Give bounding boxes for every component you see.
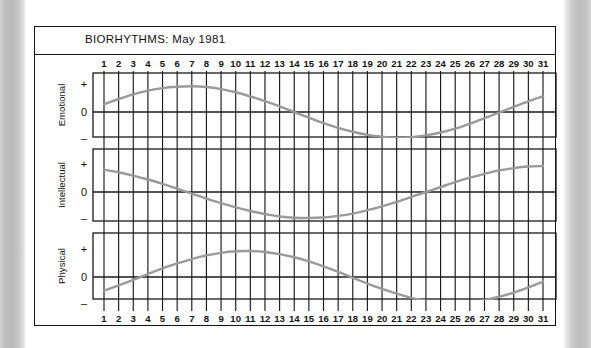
day-label-bottom: 31 [538,313,549,324]
day-label-top: 28 [494,58,505,69]
sign-plus-marker: + [81,243,87,255]
sign-minus-marker: – [81,297,88,309]
day-label-top: 23 [421,58,432,69]
day-label-top: 31 [538,58,549,69]
day-label-bottom: 29 [508,313,519,324]
day-label-top: 30 [523,58,534,69]
day-label-top: 22 [406,58,417,69]
day-label-bottom: 15 [304,313,315,324]
plot-area: 1234567891011121314151617181920212223242… [35,27,557,327]
day-label-top: 20 [377,58,388,69]
day-label-bottom: 10 [230,313,241,324]
day-label-top: 19 [362,58,373,69]
day-label-bottom: 22 [406,313,417,324]
sign-plus-marker: + [81,78,87,90]
sign-zero-marker: 0 [81,271,87,283]
day-label-top: 12 [260,58,271,69]
day-label-top: 29 [508,58,519,69]
day-label-top: 13 [274,58,285,69]
day-label-bottom: 26 [464,313,475,324]
day-label-bottom: 2 [116,313,121,324]
day-label-bottom: 21 [391,313,402,324]
day-label-bottom: 17 [333,313,344,324]
day-label-top: 11 [245,58,256,69]
day-label-top: 21 [391,58,402,69]
day-label-bottom: 8 [204,313,210,324]
day-label-top: 6 [174,58,179,69]
day-label-top: 7 [189,58,194,69]
day-label-bottom: 14 [289,313,300,324]
day-axis-bottom: 1234567891011121314151617181920212223242… [101,313,549,324]
sign-minus-marker: – [81,212,88,224]
day-label-top: 3 [131,58,136,69]
day-label-top: 26 [464,58,475,69]
day-label-bottom: 16 [318,313,329,324]
day-label-top: 9 [218,58,223,69]
biorhythm-plot-svg: 1234567891011121314151617181920212223242… [35,27,557,327]
day-label-bottom: 28 [494,313,505,324]
day-label-top: 16 [318,58,329,69]
sign-zero-marker: 0 [81,186,87,198]
day-label-top: 8 [204,58,210,69]
panel-row-labels: EmotionalIntellectualPhysical [56,84,67,284]
day-label-bottom: 3 [131,313,136,324]
day-label-bottom: 4 [145,313,151,324]
panel-label-intellectual: Intellectual [56,162,67,208]
day-label-bottom: 12 [260,313,271,324]
day-label-top: 25 [450,58,461,69]
panel-label-emotional: Emotional [56,84,67,127]
day-label-top: 10 [230,58,241,69]
day-label-bottom: 6 [174,313,179,324]
day-label-bottom: 13 [274,313,285,324]
day-label-bottom: 25 [450,313,461,324]
day-label-bottom: 1 [101,313,107,324]
page-gutter-shadow-left [0,0,26,348]
day-label-top: 1 [101,58,107,69]
day-label-bottom: 27 [479,313,490,324]
sign-zero-marker: 0 [81,106,87,118]
day-label-top: 18 [347,58,358,69]
day-label-bottom: 30 [523,313,534,324]
day-axis-top: 1234567891011121314151617181920212223242… [101,58,549,69]
day-label-bottom: 24 [435,313,446,324]
day-label-top: 5 [160,58,166,69]
day-label-bottom: 11 [245,313,256,324]
day-label-top: 2 [116,58,121,69]
day-label-bottom: 5 [160,313,166,324]
day-label-bottom: 9 [218,313,223,324]
day-label-top: 24 [435,58,446,69]
day-label-top: 14 [289,58,300,69]
day-label-bottom: 18 [347,313,358,324]
day-label-bottom: 19 [362,313,373,324]
day-label-top: 15 [304,58,315,69]
day-label-bottom: 7 [189,313,194,324]
day-label-bottom: 20 [377,313,388,324]
day-label-bottom: 23 [421,313,432,324]
scanned-page: BIORHYTHMS: May 1981 1234567891011121314… [0,0,591,348]
vertical-gridlines [104,71,543,311]
sign-plus-marker: + [81,158,87,170]
day-label-top: 4 [145,58,151,69]
biorhythm-chart-frame: BIORHYTHMS: May 1981 1234567891011121314… [34,26,556,326]
sign-minus-marker: – [81,132,88,144]
panel-label-physical: Physical [56,248,67,284]
day-label-top: 17 [333,58,344,69]
sign-markers: +0–+0–+0– [81,78,88,309]
day-label-top: 27 [479,58,490,69]
page-gutter-shadow-right [563,0,591,348]
